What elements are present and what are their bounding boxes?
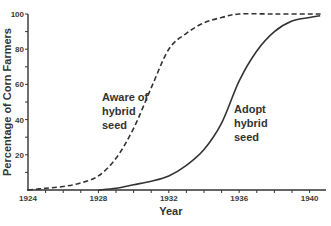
adopt-annotation-line: seed — [234, 131, 259, 143]
x-tick-label: 1936 — [230, 194, 248, 203]
adoption-chart: 2040608010019241928193219361940YearPerce… — [0, 0, 331, 226]
y-tick-label: 80 — [15, 45, 24, 54]
x-axis-title: Year — [159, 205, 183, 217]
aware-annotation-line: seed — [102, 119, 127, 131]
aware-annotation-line: Aware of — [102, 91, 149, 103]
x-tick-label: 1924 — [19, 194, 37, 203]
y-tick-label: 100 — [11, 10, 25, 19]
y-tick-label: 60 — [15, 80, 24, 89]
y-tick-label: 40 — [15, 116, 24, 125]
aware-annotation-line: hybrid — [102, 105, 136, 117]
adopt-annotation-line: hybrid — [234, 117, 268, 129]
y-axis-title: Percentage of Corn Farmers — [1, 28, 13, 176]
x-tick-label: 1928 — [90, 194, 108, 203]
aware-curve — [28, 14, 322, 190]
adopt-annotation-line: Adopt — [234, 103, 266, 115]
x-tick-label: 1940 — [301, 194, 319, 203]
x-tick-label: 1932 — [160, 194, 178, 203]
chart-canvas: 2040608010019241928193219361940YearPerce… — [0, 0, 331, 226]
y-tick-label: 20 — [15, 151, 24, 160]
